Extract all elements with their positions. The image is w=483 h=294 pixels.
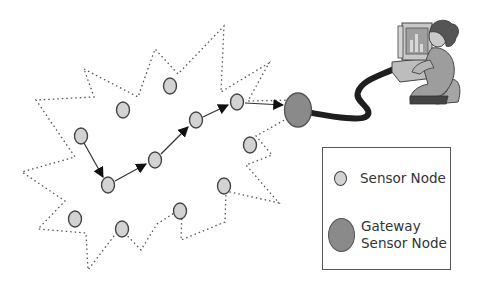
sensor-node bbox=[102, 177, 115, 193]
legend-label: Sensor Node bbox=[360, 170, 446, 187]
sensor-node bbox=[164, 78, 177, 94]
sensor-node bbox=[190, 112, 203, 128]
sensor-node bbox=[231, 94, 244, 110]
sensor-node bbox=[244, 137, 257, 153]
legend-label: Gateway bbox=[361, 218, 447, 235]
legend: Sensor Node Gateway Sensor Node bbox=[322, 147, 451, 270]
sensor-node bbox=[149, 152, 162, 168]
legend-item-sensor-node: Sensor Node bbox=[334, 170, 446, 187]
sensor-node bbox=[218, 178, 231, 194]
workstation-illustration bbox=[392, 20, 460, 104]
sensor-node bbox=[75, 128, 88, 144]
sensor-nodes bbox=[69, 78, 257, 237]
sensor-node bbox=[116, 221, 129, 237]
gateway-node-swatch-icon bbox=[328, 218, 355, 252]
sensor-node bbox=[174, 203, 187, 219]
sensor-node-swatch-icon bbox=[334, 171, 347, 186]
sensor-node bbox=[117, 102, 130, 118]
gateway-node bbox=[285, 93, 312, 127]
gateway-cable bbox=[306, 68, 396, 119]
legend-item-gateway-node: Gateway Sensor Node bbox=[328, 218, 447, 252]
sensor-node bbox=[69, 211, 82, 227]
legend-label: Sensor Node bbox=[361, 235, 447, 252]
